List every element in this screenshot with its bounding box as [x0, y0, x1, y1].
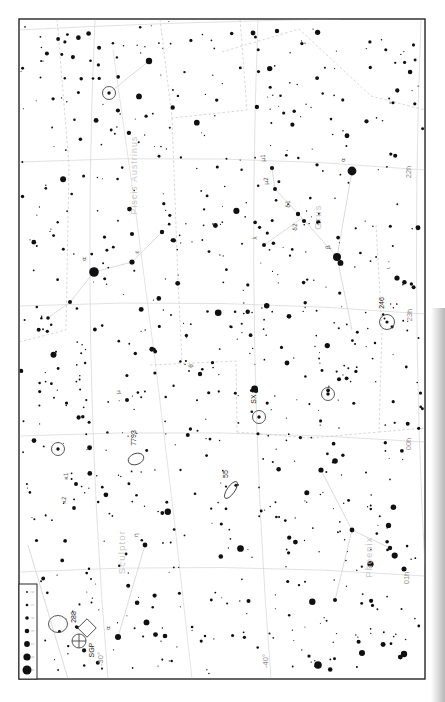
star-dot — [63, 40, 66, 43]
star-dot — [38, 382, 41, 385]
legend-mag-label: 6 — [31, 591, 35, 593]
star-dot — [33, 270, 35, 272]
star-dot — [264, 303, 270, 309]
star-dot — [315, 163, 318, 166]
bright-star — [350, 528, 355, 533]
star-dot — [277, 180, 280, 183]
star-dot — [121, 166, 124, 169]
star-dot — [269, 506, 271, 508]
star-dot — [300, 42, 303, 45]
star-dot — [31, 517, 32, 518]
star-dot — [36, 245, 38, 247]
star-dot — [137, 391, 140, 394]
star-dot — [185, 360, 187, 362]
star-dot — [406, 329, 408, 331]
star-dot — [394, 422, 396, 424]
star-dot — [116, 108, 120, 112]
star-dot — [24, 319, 26, 321]
star-dot — [197, 430, 199, 432]
star-dot — [392, 400, 395, 403]
star-dot — [292, 630, 293, 631]
star-dot — [326, 620, 328, 622]
star-dot — [194, 120, 200, 126]
star-dot — [131, 470, 133, 472]
star-dot — [341, 306, 342, 307]
star-dot — [234, 311, 237, 314]
star-dot — [102, 104, 103, 105]
star-dot — [77, 91, 80, 94]
star-dot — [138, 597, 139, 598]
legend-dot — [25, 616, 29, 620]
star-dot — [112, 42, 115, 45]
star-dot — [245, 310, 249, 314]
star-dot — [241, 332, 242, 333]
star-dot — [383, 631, 385, 633]
star-dot — [178, 592, 181, 595]
star-dot — [186, 337, 187, 338]
star-dot — [139, 307, 144, 312]
star-dot — [347, 551, 348, 552]
star-dot — [333, 579, 334, 580]
star-dot — [169, 127, 171, 129]
star-dot — [42, 60, 43, 61]
star-dot — [175, 444, 176, 445]
star-dot — [127, 482, 130, 485]
star-dot — [201, 132, 202, 133]
star-dot — [112, 246, 115, 249]
star-dot — [170, 314, 172, 316]
star-dot — [205, 419, 206, 420]
star-label: β — [324, 245, 332, 249]
star-label: δ1 — [284, 200, 291, 208]
legend-mag-label: 2 — [31, 643, 35, 645]
star-dot — [132, 395, 133, 396]
bright-star — [129, 259, 134, 264]
star-dot — [158, 42, 160, 44]
star-dot — [219, 554, 224, 559]
star-dot — [38, 390, 41, 393]
star-dot — [240, 160, 241, 161]
star-dot — [411, 90, 412, 91]
star-dot — [175, 281, 180, 286]
star-dot — [413, 102, 416, 105]
star-dot — [330, 118, 333, 121]
star-dot — [350, 381, 352, 383]
star-dot — [355, 634, 356, 635]
star-dot — [338, 427, 340, 429]
star-dot — [208, 250, 211, 253]
dso-label: 246 — [378, 297, 385, 309]
star-label: λ — [251, 236, 258, 240]
star-dot — [296, 399, 297, 400]
star-dot — [341, 474, 342, 475]
star-dot — [299, 436, 302, 439]
star-dot — [309, 197, 312, 200]
star-dot — [339, 242, 340, 243]
star-dot — [336, 633, 337, 634]
star-dot — [228, 529, 230, 531]
star-dot — [157, 511, 159, 513]
star-dot — [361, 566, 363, 568]
star-dot — [116, 178, 119, 181]
star-dot — [275, 516, 278, 519]
star-dot — [36, 100, 37, 101]
star-dot — [334, 68, 335, 69]
star-dot — [345, 145, 347, 147]
star-dot — [346, 323, 348, 325]
star-dot — [308, 403, 310, 405]
star-dot — [117, 220, 119, 222]
star-dot — [66, 210, 68, 212]
star-dot — [120, 476, 121, 477]
star-dot — [417, 625, 420, 628]
star-dot — [261, 307, 262, 308]
star-dot — [374, 342, 376, 344]
star-dot — [35, 539, 38, 542]
star-dot — [206, 194, 209, 197]
star-dot — [42, 328, 44, 330]
star-dot — [329, 658, 331, 660]
star-dot — [135, 118, 136, 119]
star-dot — [389, 152, 392, 155]
bright-star — [160, 230, 164, 234]
star-dot — [62, 248, 65, 251]
star-dot — [173, 528, 176, 531]
star-dot — [293, 110, 296, 113]
star-dot — [272, 95, 273, 96]
